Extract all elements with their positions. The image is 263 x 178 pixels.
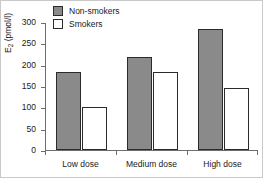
y-axis-tick: 100 (41, 108, 45, 109)
bar-group-container (46, 23, 258, 150)
bar-non-smokers-high-dose (198, 29, 223, 150)
plot-area: 050100150200250300 (45, 23, 258, 151)
bar-chart-figure: Non-smokers Smokers E2 (pmol/l) 05010015… (0, 0, 263, 178)
x-axis-tick (257, 151, 258, 155)
bar-smokers-medium-dose (153, 72, 178, 151)
x-axis-tick (45, 151, 46, 155)
y-axis-tick-label: 100 (22, 102, 36, 112)
y-axis-tick-label: 50 (27, 124, 36, 134)
bar-smokers-high-dose (224, 88, 249, 150)
x-axis-label-high-dose: High dose (203, 159, 241, 169)
x-axis-line (45, 150, 258, 151)
y-axis-tick: 300 (41, 23, 45, 24)
y-axis-tick-label: 0 (31, 145, 36, 155)
y-axis-title-subscript: 2 (7, 44, 14, 48)
legend-item-non-smokers: Non-smokers (53, 5, 120, 16)
y-axis-tick: 150 (41, 87, 45, 88)
y-axis-tick: 50 (41, 130, 45, 131)
bar-smokers-low-dose (82, 107, 107, 150)
y-axis-tick: 200 (41, 66, 45, 67)
bar-non-smokers-low-dose (56, 72, 81, 150)
y-axis-title-base: E (3, 47, 13, 53)
legend-swatch-non-smokers-icon (53, 6, 63, 16)
y-axis-tick-label: 300 (22, 17, 36, 27)
legend-label-non-smokers: Non-smokers (69, 6, 120, 16)
y-axis-tick-label: 250 (22, 38, 36, 48)
y-axis-title-unit: (pmol/l) (3, 13, 13, 44)
x-axis-label-medium-dose: Medium dose (126, 159, 177, 169)
y-axis-tick-label: 200 (22, 60, 36, 70)
x-axis-tick (187, 151, 188, 155)
bar-non-smokers-medium-dose (127, 57, 152, 150)
y-axis-tick: 250 (41, 44, 45, 45)
y-axis-title: E2 (pmol/l) (3, 13, 13, 53)
x-axis-tick (116, 151, 117, 155)
x-axis-label-low-dose: Low dose (62, 159, 98, 169)
x-axis-category-labels: Low doseMedium doseHigh dose (45, 159, 258, 173)
y-axis-tick-label: 150 (22, 81, 36, 91)
